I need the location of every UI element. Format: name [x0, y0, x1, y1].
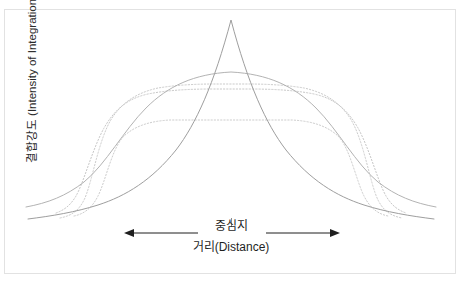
y-axis-label-english: (Intensity of Integration) — [27, 0, 39, 116]
y-axis-label: 결합강도 (Intensity of Integration) — [16, 0, 50, 174]
x-axis-center-label: 중심지 — [0, 218, 462, 234]
x-axis-distance-label: 거리(Distance) — [0, 239, 462, 255]
y-axis-label-stack: 결합강도 — [27, 119, 39, 163]
figure-container: 결합강도 (Intensity of Integration) 중심지 거리(D… — [0, 0, 462, 284]
y-axis-label-korean: 결합강도 — [27, 119, 39, 163]
